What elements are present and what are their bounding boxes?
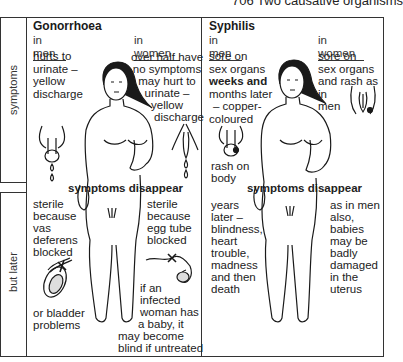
syphilis-female-figure-illustration bbox=[0, 0, 387, 362]
